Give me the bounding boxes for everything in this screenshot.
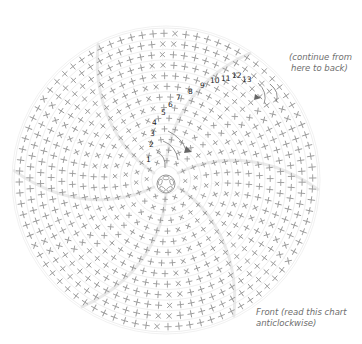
- round-number-4: 4: [152, 118, 157, 127]
- front-note-line2: anticlockwise): [256, 318, 347, 329]
- continue-note-line2: here to back): [289, 63, 352, 74]
- continue-note: (continue from here to back): [289, 52, 352, 74]
- round-number-9: 9: [200, 81, 205, 90]
- direction-arrow: [157, 152, 165, 168]
- round-number-6: 6: [168, 100, 173, 109]
- round-number-12: 12: [232, 71, 242, 80]
- round-number-5: 5: [161, 108, 166, 117]
- round-number-11: 11: [221, 74, 231, 83]
- front-note-line1: Front (read this chart: [256, 307, 347, 318]
- round-number-8: 8: [188, 87, 193, 96]
- foundation-ring: [157, 175, 175, 193]
- round-number-1: 1: [146, 155, 151, 164]
- round-number-10: 10: [210, 76, 220, 85]
- round-number-7: 7: [176, 93, 181, 102]
- round-number-13: 13: [242, 75, 252, 84]
- front-note: Front (read this chart anticlockwise): [256, 307, 347, 329]
- continue-note-line1: (continue from: [289, 52, 352, 63]
- round-number-3: 3: [150, 129, 155, 138]
- round-number-2: 2: [149, 140, 154, 149]
